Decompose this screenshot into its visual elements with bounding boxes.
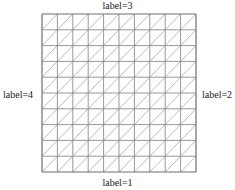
mesh-diagonal bbox=[57, 61, 72, 77]
mesh-diagonal bbox=[165, 46, 180, 62]
mesh-diagonal bbox=[73, 140, 88, 156]
mesh-diagonal bbox=[150, 46, 165, 62]
mesh-diagonal bbox=[150, 125, 165, 141]
mesh-diagonal bbox=[181, 109, 196, 125]
mesh-diagonal bbox=[181, 125, 196, 141]
mesh-diagonal bbox=[181, 156, 196, 172]
mesh-diagonal bbox=[42, 125, 57, 141]
mesh-diagonal bbox=[42, 109, 57, 125]
mesh-diagonal bbox=[42, 156, 57, 172]
mesh-diagonal bbox=[104, 109, 119, 125]
mesh-diagonal bbox=[134, 30, 149, 46]
mesh-diagonal bbox=[181, 30, 196, 46]
mesh-diagonal bbox=[150, 30, 165, 46]
mesh-diagonal bbox=[181, 93, 196, 109]
mesh-diagonal bbox=[150, 109, 165, 125]
mesh-diagonal bbox=[73, 125, 88, 141]
mesh-diagonal bbox=[104, 125, 119, 141]
mesh-diagonal bbox=[42, 93, 57, 109]
mesh-diagonal bbox=[42, 77, 57, 93]
mesh-diagonal bbox=[88, 140, 103, 156]
mesh-diagonal bbox=[88, 77, 103, 93]
mesh-diagonal bbox=[104, 46, 119, 62]
mesh-diagonal bbox=[119, 93, 134, 109]
mesh-diagonal bbox=[104, 156, 119, 172]
mesh-diagonal bbox=[42, 140, 57, 156]
mesh-diagonal bbox=[181, 46, 196, 62]
mesh-diagonal bbox=[73, 61, 88, 77]
mesh-diagonal bbox=[88, 93, 103, 109]
mesh-diagonal bbox=[88, 109, 103, 125]
mesh-diagonal bbox=[119, 125, 134, 141]
mesh-diagonal bbox=[119, 109, 134, 125]
mesh-diagonal bbox=[165, 14, 180, 30]
mesh-diagonal bbox=[119, 140, 134, 156]
mesh-diagonal bbox=[104, 30, 119, 46]
mesh-diagonal bbox=[165, 140, 180, 156]
mesh-diagonal bbox=[57, 14, 72, 30]
mesh-diagonal bbox=[119, 14, 134, 30]
mesh-diagonal bbox=[57, 140, 72, 156]
mesh-diagonal bbox=[134, 125, 149, 141]
mesh-diagonal bbox=[165, 30, 180, 46]
mesh-diagonal bbox=[42, 61, 57, 77]
mesh-diagonal bbox=[57, 77, 72, 93]
mesh-diagonal bbox=[88, 125, 103, 141]
mesh-diagonal bbox=[57, 156, 72, 172]
mesh-diagonal bbox=[42, 30, 57, 46]
mesh-diagonal bbox=[134, 140, 149, 156]
mesh-diagonal bbox=[104, 61, 119, 77]
mesh-diagonal bbox=[150, 156, 165, 172]
mesh-diagonal bbox=[73, 77, 88, 93]
mesh-diagonal bbox=[150, 61, 165, 77]
mesh-diagonal bbox=[57, 125, 72, 141]
mesh-diagonal bbox=[134, 61, 149, 77]
mesh-diagonal bbox=[73, 156, 88, 172]
mesh-diagonal bbox=[119, 61, 134, 77]
mesh-diagonal bbox=[150, 93, 165, 109]
mesh-diagonal bbox=[134, 156, 149, 172]
mesh-diagonal bbox=[119, 77, 134, 93]
mesh-diagonal bbox=[134, 93, 149, 109]
mesh-diagonal bbox=[57, 93, 72, 109]
mesh-diagonal bbox=[73, 109, 88, 125]
mesh-diagonal bbox=[134, 46, 149, 62]
mesh-diagonal bbox=[134, 109, 149, 125]
triangle-mesh bbox=[0, 0, 235, 190]
mesh-diagonal bbox=[88, 14, 103, 30]
mesh-diagonal bbox=[181, 14, 196, 30]
mesh-diagonal bbox=[165, 61, 180, 77]
mesh-diagonal bbox=[104, 77, 119, 93]
mesh-diagonal bbox=[181, 77, 196, 93]
mesh-diagonal bbox=[119, 156, 134, 172]
mesh-diagonal bbox=[57, 46, 72, 62]
mesh-diagonal bbox=[134, 14, 149, 30]
mesh-diagonal bbox=[165, 93, 180, 109]
mesh-diagonal bbox=[88, 61, 103, 77]
mesh-diagonal bbox=[181, 140, 196, 156]
mesh-diagonal bbox=[181, 61, 196, 77]
mesh-diagonal bbox=[165, 125, 180, 141]
mesh-diagonal bbox=[57, 30, 72, 46]
mesh-diagonal bbox=[134, 77, 149, 93]
mesh-diagonal bbox=[88, 156, 103, 172]
mesh-diagonal bbox=[165, 109, 180, 125]
mesh-diagonal bbox=[119, 46, 134, 62]
mesh-diagonal bbox=[165, 156, 180, 172]
mesh-diagonal bbox=[150, 14, 165, 30]
mesh-diagonal bbox=[42, 14, 57, 30]
mesh-diagonal bbox=[57, 109, 72, 125]
mesh-diagonal bbox=[119, 30, 134, 46]
mesh-diagonal bbox=[73, 93, 88, 109]
mesh-diagonal bbox=[104, 14, 119, 30]
mesh-diagonal bbox=[104, 140, 119, 156]
mesh-diagonal bbox=[150, 77, 165, 93]
mesh-diagonal bbox=[88, 30, 103, 46]
mesh-diagonal bbox=[88, 46, 103, 62]
mesh-diagonal bbox=[73, 14, 88, 30]
mesh-diagonal bbox=[42, 46, 57, 62]
mesh-diagonal bbox=[104, 93, 119, 109]
mesh-diagonal bbox=[150, 140, 165, 156]
mesh-diagonal bbox=[165, 77, 180, 93]
mesh-diagonal bbox=[73, 30, 88, 46]
